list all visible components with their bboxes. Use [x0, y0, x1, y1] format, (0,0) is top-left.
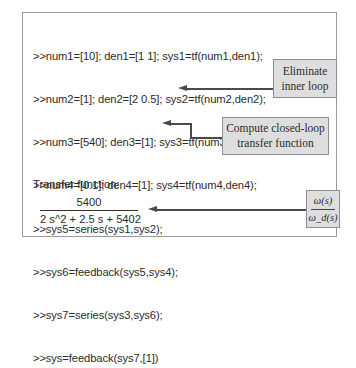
code-line-8: >>sys=feedback(sys7,[1])	[33, 351, 266, 365]
arrow-closed-loop-vertical	[190, 123, 192, 138]
callout-eliminate-inner-loop: Eliminate inner loop	[273, 59, 337, 98]
transfer-function-numerator: 5400	[40, 196, 138, 208]
code-block: >>num1=[10]; den1=[1 1]; sys1=tf(num1,de…	[33, 20, 266, 368]
callout-eliminate-line1: Eliminate	[274, 64, 336, 79]
code-line-2: >>num2=[1]; den2=[2 0.5]; sys2=tf(num2,d…	[33, 92, 266, 106]
callout-output-ratio: ω(s) ω_d(s)	[306, 190, 340, 228]
callout-eliminate-line2: inner loop	[274, 79, 336, 94]
arrow-eliminate-head-icon	[178, 85, 187, 91]
ratio-fraction-bar	[311, 209, 335, 210]
callout-closed-loop-line1: Compute closed-loop	[223, 121, 328, 136]
code-line-1: >>num1=[10]; den1=[1 1]; sys1=tf(num1,de…	[33, 49, 266, 63]
arrow-output-ratio-shaft	[156, 209, 306, 211]
transfer-function-fraction-bar	[40, 210, 138, 211]
ratio-denominator: ω_d(s)	[307, 212, 339, 224]
code-line-6: >>sys6=feedback(sys5,sys4);	[33, 265, 266, 279]
ratio-numerator: ω(s)	[307, 195, 339, 207]
arrow-closed-loop-head-icon	[162, 120, 171, 126]
callout-closed-loop: Compute closed-loop transfer function	[222, 117, 329, 155]
arrow-closed-loop-horizontal-top	[170, 123, 191, 125]
transfer-function-denominator: 2 s^2 + 2.5 s + 5402	[40, 213, 138, 225]
arrow-output-ratio-head-icon	[148, 206, 157, 212]
callout-closed-loop-line2: transfer function	[223, 136, 328, 151]
transfer-function-label: Transfer function:	[33, 178, 120, 190]
arrow-eliminate-shaft	[186, 88, 273, 90]
code-line-7: >>sys7=series(sys3,sys6);	[33, 308, 266, 322]
arrow-closed-loop-horizontal-bottom	[190, 137, 222, 139]
